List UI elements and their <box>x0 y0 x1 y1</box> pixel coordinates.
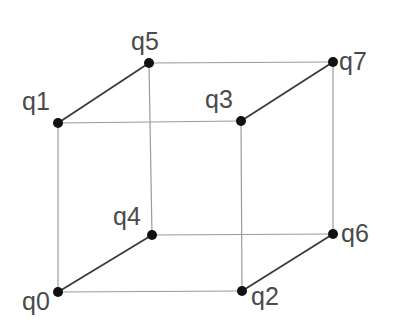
node-q4 <box>147 230 157 240</box>
node-label-q0: q0 <box>22 287 50 315</box>
node-q3 <box>236 116 246 126</box>
nodes-layer <box>53 57 338 297</box>
node-q7 <box>328 57 338 67</box>
edge-q0-q2 <box>58 291 242 292</box>
edge-q5-q4 <box>149 63 152 235</box>
node-q0 <box>53 287 63 297</box>
node-q5 <box>144 58 154 68</box>
node-label-q4: q4 <box>113 202 141 230</box>
node-label-q6: q6 <box>341 219 369 247</box>
labels-layer: q0q1q2q3q4q5q6q7 <box>22 27 369 315</box>
node-label-q1: q1 <box>22 87 50 115</box>
node-label-q7: q7 <box>339 47 367 75</box>
node-label-q3: q3 <box>205 85 233 113</box>
edge-q0-q4 <box>58 235 152 292</box>
node-label-q2: q2 <box>251 282 279 310</box>
edge-q3-q2 <box>241 121 242 291</box>
edge-q5-q7 <box>149 62 333 63</box>
edge-q3-q7 <box>241 62 333 121</box>
edge-q1-q5 <box>58 63 149 123</box>
node-q2 <box>237 286 247 296</box>
edges-layer <box>58 62 333 292</box>
node-label-q5: q5 <box>131 27 159 55</box>
edge-q4-q6 <box>152 234 333 235</box>
cube-diagram: q0q1q2q3q4q5q6q7 <box>0 0 398 331</box>
node-q6 <box>328 229 338 239</box>
node-q1 <box>53 118 63 128</box>
